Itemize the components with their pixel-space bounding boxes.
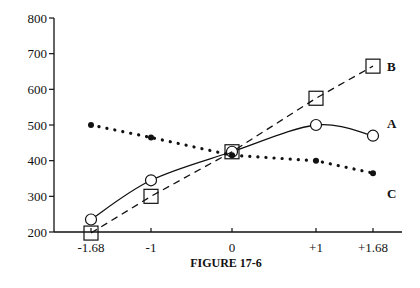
series-label-b: B xyxy=(387,59,396,74)
x-tick-label: +1.68 xyxy=(358,240,388,255)
data-point xyxy=(86,214,97,225)
data-point xyxy=(148,134,154,140)
figure-caption: FIGURE 17-6 xyxy=(0,256,420,271)
x-tick-label: +1 xyxy=(309,240,323,255)
y-tick-label: 700 xyxy=(28,46,48,61)
data-point xyxy=(88,122,94,128)
data-point xyxy=(146,175,157,186)
data-point xyxy=(311,120,322,131)
data-point xyxy=(313,158,319,164)
y-tick-label: 600 xyxy=(28,82,48,97)
y-tick-label: 500 xyxy=(28,118,48,133)
y-tick-label: 300 xyxy=(28,189,48,204)
y-tick-label: 800 xyxy=(28,11,48,26)
x-tick-label: 0 xyxy=(229,240,236,255)
series-label-a: A xyxy=(387,116,397,131)
chart-plot: 200300400500600700800-1.68-10+1+1.68ABC xyxy=(0,0,420,288)
caption-text: FIGURE 17-6 xyxy=(190,256,262,270)
x-tick-label: -1.68 xyxy=(77,240,104,255)
x-tick-label: -1 xyxy=(146,240,157,255)
data-point xyxy=(370,170,376,176)
data-point xyxy=(309,91,323,105)
series-a: A xyxy=(86,116,398,225)
data-point xyxy=(368,130,379,141)
y-tick-label: 400 xyxy=(28,153,48,168)
y-tick-label: 200 xyxy=(28,225,48,240)
data-point xyxy=(229,152,235,158)
series-label-c: C xyxy=(387,186,396,201)
data-point xyxy=(144,189,158,203)
